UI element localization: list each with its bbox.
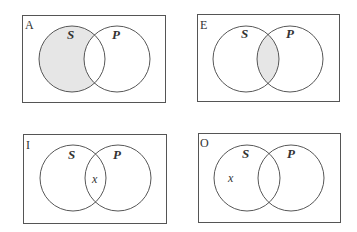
set-label-s: S bbox=[68, 147, 75, 162]
corner-label: E bbox=[200, 18, 207, 32]
existence-mark: x bbox=[227, 171, 234, 185]
set-label-p: P bbox=[112, 27, 121, 42]
existence-mark: x bbox=[91, 172, 98, 186]
diagram-i: I S P x bbox=[24, 135, 167, 224]
diagram-a: A S P bbox=[23, 16, 166, 103]
set-label-p: P bbox=[286, 26, 295, 41]
corner-label: A bbox=[25, 18, 34, 32]
diagram-e: E S P bbox=[198, 15, 340, 102]
set-label-s: S bbox=[242, 146, 249, 161]
corner-label: I bbox=[26, 138, 30, 152]
set-label-p: P bbox=[287, 146, 296, 161]
set-label-s: S bbox=[241, 26, 248, 41]
set-label-s: S bbox=[67, 27, 74, 42]
set-label-p: P bbox=[113, 147, 122, 162]
universe-box bbox=[199, 134, 341, 223]
venn-diagrams: A S P E S P I S P x O S P x bbox=[0, 0, 357, 232]
diagram-o: O S P x bbox=[199, 134, 341, 223]
corner-label: O bbox=[200, 136, 209, 150]
